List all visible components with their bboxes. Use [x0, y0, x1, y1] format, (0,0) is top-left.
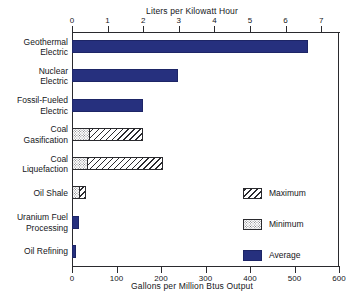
dotted-swatch	[243, 219, 262, 230]
bar-average	[72, 69, 178, 82]
category-label: Coal Liquefaction	[22, 153, 68, 174]
top-tick-mark	[72, 26, 73, 32]
bottom-tick-mark	[339, 267, 340, 273]
top-tick-label: 4	[212, 16, 216, 25]
legend-label: Average	[269, 250, 301, 260]
legend-item: Average	[243, 248, 339, 262]
chart-legend: MaximumMinimumAverage	[243, 186, 339, 279]
solid-navy-swatch	[243, 250, 262, 261]
top-tick-mark	[143, 26, 144, 32]
category-label: Oil Refining	[24, 246, 68, 257]
hatched-swatch	[243, 188, 262, 199]
top-tick-label: 6	[283, 16, 287, 25]
legend-label: Minimum	[269, 219, 303, 229]
bar-average	[72, 216, 79, 229]
top-tick-mark	[250, 26, 251, 32]
legend-item: Minimum	[243, 217, 339, 231]
bottom-tick-mark	[117, 267, 118, 273]
bar-average	[72, 245, 76, 258]
top-tick-label: 3	[177, 16, 181, 25]
category-label: Geothermal Electric	[24, 36, 68, 57]
top-tick-mark	[321, 26, 322, 32]
bottom-axis-title: Gallons per Million Btus Output	[0, 281, 360, 291]
top-tick-label: 7	[319, 16, 323, 25]
bottom-tick-mark	[72, 267, 73, 273]
category-label: Uranium Fuel Processing	[17, 212, 68, 233]
category-label: Coal Gasification	[24, 124, 68, 145]
top-tick-label: 5	[248, 16, 252, 25]
top-axis-title: Liters per Kilowatt Hour	[0, 6, 360, 16]
bar-chart: Liters per Kilowatt Hour 01234567 010020…	[0, 0, 360, 297]
category-label: Oil Shale	[34, 188, 69, 199]
bar-minimum	[72, 157, 88, 170]
bar-average	[72, 40, 308, 53]
top-tick-label: 1	[105, 16, 109, 25]
legend-item: Maximum	[243, 186, 339, 200]
category-label: Nuclear Electric	[39, 65, 68, 86]
top-tick-label: 0	[70, 16, 74, 25]
category-label: Fossil-Fueled Electric	[17, 95, 68, 116]
legend-label: Maximum	[269, 188, 306, 198]
top-tick-mark	[108, 26, 109, 32]
bottom-tick-mark	[161, 267, 162, 273]
bottom-tick-mark	[206, 267, 207, 273]
bar-minimum	[72, 128, 90, 141]
top-tick-label: 2	[141, 16, 145, 25]
bar-average	[72, 99, 143, 112]
top-tick-mark	[214, 26, 215, 32]
top-tick-mark	[179, 26, 180, 32]
top-tick-mark	[286, 26, 287, 32]
bar-minimum	[72, 186, 80, 199]
